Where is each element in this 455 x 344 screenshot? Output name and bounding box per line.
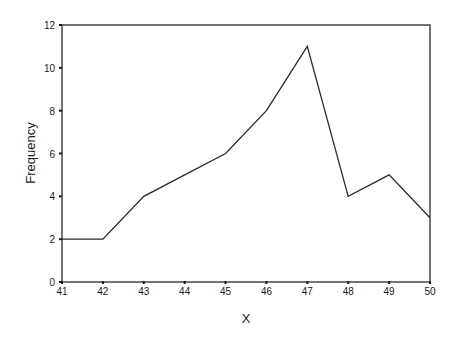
y-axis-title: Frequency — [23, 122, 38, 184]
x-tick-label: 48 — [343, 286, 355, 297]
x-tick-label: 47 — [302, 286, 314, 297]
x-tick-label: 42 — [97, 286, 109, 297]
x-tick-label: 46 — [261, 286, 273, 297]
x-tick-label: 44 — [179, 286, 191, 297]
x-tick-label: 50 — [424, 286, 436, 297]
y-tick-label: 4 — [49, 191, 55, 202]
line-chart: 41424344454647484950 024681012 X Frequen… — [0, 0, 455, 344]
x-axis-title: X — [242, 311, 251, 326]
x-tick-label: 43 — [138, 286, 150, 297]
y-tick-label: 2 — [49, 234, 55, 245]
x-tick-label: 49 — [384, 286, 396, 297]
y-tick-label: 6 — [49, 149, 55, 160]
y-tick-label: 12 — [44, 20, 56, 31]
y-tick-label: 10 — [44, 63, 56, 74]
x-axis-ticks: 41424344454647484950 — [56, 281, 436, 297]
x-tick-label: 45 — [220, 286, 232, 297]
data-line — [62, 46, 430, 239]
plot-frame — [62, 25, 430, 282]
y-tick-label: 8 — [49, 106, 55, 117]
y-axis-ticks: 024681012 — [44, 20, 62, 288]
y-tick-label: 0 — [49, 277, 55, 288]
x-tick-label: 41 — [56, 286, 68, 297]
